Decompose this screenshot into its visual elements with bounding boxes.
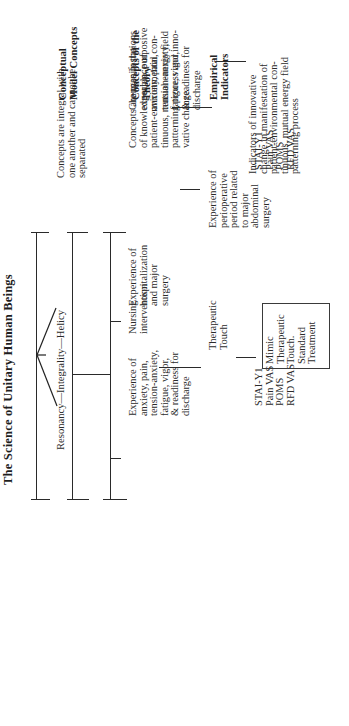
empirical-indicator-perioperative: Experience of perioperative period relat… (208, 170, 272, 228)
connector-left (180, 189, 200, 190)
empirical-indicator-treatment-groups: Mimic Therapeutic Touch. Standard Treatm… (265, 314, 318, 364)
connector-middle-right (159, 367, 201, 368)
description-theory: Concepts are manifestations of knowledge… (128, 28, 192, 148)
theory-concept-nursing-intervention: Nursing intervention (128, 284, 149, 334)
connector-right (216, 61, 246, 62)
empirical-indicator-therapeutic-touch: Therapeutic Touch (208, 300, 229, 350)
empirical-indicator-measures-pre: STAI-Y1 Pain VAS POMS RFD VAS (254, 364, 296, 406)
connector-box (236, 357, 256, 358)
theory-concept-experience: Experience of anxiety, pain, tension-anx… (128, 350, 192, 416)
conceptual-model-principles: Resonancy—Integrality—Helicy (56, 310, 67, 450)
diagram-page: The Science of Unitary Human Beings Conc… (0, 0, 349, 726)
description-conceptual: Concepts are integral with one another a… (56, 69, 88, 178)
description-empirical: Indicators of innovative change in manif… (248, 57, 301, 174)
